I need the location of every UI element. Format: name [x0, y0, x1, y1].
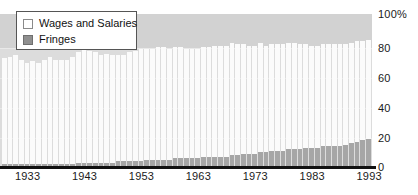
bar-column: [360, 14, 365, 166]
y-tick-label-60: 60: [378, 73, 391, 84]
bar-segment-fringes: [201, 157, 206, 166]
bar-segment-wages: [110, 55, 115, 163]
bar-segment-fringes: [224, 157, 229, 166]
bar-segment-fringes: [247, 154, 252, 166]
bar-segment-wages: [201, 47, 206, 156]
bar-column: [139, 14, 144, 166]
bar-column: [156, 14, 161, 166]
bar-segment-wages: [207, 47, 212, 156]
bar-segment-fringes: [303, 148, 308, 166]
bar-segment-wages: [252, 46, 257, 154]
bar-column: [184, 14, 189, 166]
y-tick-label-80: 80: [378, 43, 391, 54]
bar-column: [338, 14, 343, 166]
bar-column: [218, 14, 223, 166]
bar-segment-wages: [235, 44, 240, 155]
bar-column: [212, 14, 217, 166]
chart-screenshot: 100% 80 60 40 20 0 193319431953196319731…: [0, 0, 418, 195]
bar-column: [150, 14, 155, 166]
bar-column: [144, 14, 149, 166]
bar-segment-wages: [332, 44, 337, 146]
bar-segment-wages: [144, 49, 149, 160]
x-axis-labels: 1933194319531963197319831993: [0, 171, 380, 191]
bar-segment-wages: [349, 43, 354, 143]
bar-segment-fringes: [315, 148, 320, 166]
x-axis-baseline: [0, 166, 376, 169]
bar-column: [178, 14, 183, 166]
bar-segment-fringes: [252, 154, 257, 166]
bar-column: [298, 14, 303, 166]
bar-column: [241, 14, 246, 166]
legend-item-wages: Wages and Salaries: [23, 16, 131, 31]
bar-segment-wages: [315, 46, 320, 148]
bar-segment-fringes: [218, 157, 223, 166]
bar-segment-fringes: [264, 152, 269, 166]
bar-segment-wages: [286, 43, 291, 149]
y-tick-label-100: 100%: [378, 9, 407, 20]
bar-segment-fringes: [349, 143, 354, 166]
bar-segment-fringes: [360, 140, 365, 166]
bar-segment-wages: [42, 60, 47, 165]
bar-segment-fringes: [184, 158, 189, 166]
bar-column: [343, 14, 348, 166]
bar-column: [275, 14, 280, 166]
bar-segment-fringes: [207, 157, 212, 166]
x-tick-label-1953: 1953: [129, 171, 154, 182]
bar-segment-wages: [258, 43, 263, 152]
bar-segment-wages: [281, 44, 286, 150]
bar-segment-fringes: [269, 151, 274, 166]
bar-segment-fringes: [366, 139, 371, 166]
bar-segment-wages: [161, 47, 166, 159]
bar-segment-wages: [173, 47, 178, 158]
y-axis-labels: 100% 80 60 40 20 0: [378, 0, 418, 180]
bar-segment-wages: [343, 44, 348, 144]
bar-segment-wages: [247, 46, 252, 154]
bar-segment-wages: [292, 43, 297, 149]
bar-segment-fringes: [190, 158, 195, 166]
bar-segment-wages: [93, 52, 98, 163]
bar-segment-wages: [360, 41, 365, 140]
bar-segment-wages: [53, 60, 58, 165]
bar-segment-wages: [321, 44, 326, 146]
bar-segment-wages: [13, 55, 18, 164]
x-tick-label-1933: 1933: [15, 171, 40, 182]
legend-label-wages: Wages and Salaries: [39, 18, 137, 29]
bar-segment-fringes: [332, 146, 337, 166]
bar-segment-wages: [65, 60, 70, 165]
bar-column: [292, 14, 297, 166]
bar-segment-wages: [36, 63, 41, 165]
bar-segment-wages: [99, 55, 104, 163]
bar-segment-fringes: [173, 158, 178, 166]
bar-segment-wages: [76, 52, 81, 163]
bar-column: [230, 14, 235, 166]
bar-segment-wages: [59, 60, 64, 165]
bar-column: [349, 14, 354, 166]
bar-segment-fringes: [281, 151, 286, 166]
bar-segment-wages: [116, 55, 121, 161]
bar-segment-wages: [156, 47, 161, 159]
bar-segment-wages: [178, 47, 183, 158]
bar-segment-wages: [2, 58, 7, 164]
bar-segment-wages: [104, 54, 109, 163]
bar-segment-wages: [275, 44, 280, 150]
bar-segment-wages: [269, 44, 274, 150]
wages-swatch-icon: [23, 19, 33, 29]
bar-segment-fringes: [258, 152, 263, 166]
bar-segment-fringes: [275, 151, 280, 166]
bar-segment-fringes: [343, 145, 348, 166]
bar-column: [355, 14, 360, 166]
bar-segment-fringes: [241, 154, 246, 166]
bar-segment-wages: [139, 49, 144, 161]
bar-segment-wages: [184, 49, 189, 158]
bar-segment-wages: [87, 51, 92, 163]
bar-column: [224, 14, 229, 166]
bar-column: [326, 14, 331, 166]
bar-column: [258, 14, 263, 166]
bar-column: [286, 14, 291, 166]
bar-column: [269, 14, 274, 166]
bar-column: [8, 14, 13, 166]
bar-segment-wages: [355, 41, 360, 141]
bar-column: [173, 14, 178, 166]
bar-segment-fringes: [326, 146, 331, 166]
bar-segment-wages: [190, 49, 195, 158]
